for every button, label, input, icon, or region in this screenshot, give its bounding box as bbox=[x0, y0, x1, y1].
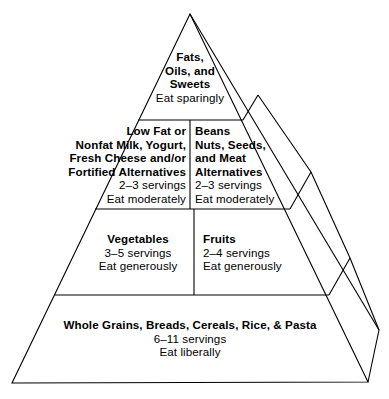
tier-4-servings: 6–11 servings bbox=[25, 332, 355, 346]
side-edge-tier2 bbox=[311, 172, 350, 258]
pyramid-side-face-bottom bbox=[368, 330, 379, 382]
tier-1-advice: Eat sparingly bbox=[128, 91, 252, 105]
tier-3-right-advice: Eat generously bbox=[203, 259, 313, 273]
tier-2-right-label: Beans Nuts, Seeds, and Meat Alternatives bbox=[195, 124, 315, 178]
tier-1-cell-fats-oils-sweets: Fats, Oils, and Sweets Eat sparingly bbox=[128, 50, 252, 104]
tier-2-cell-milk-group: Low Fat or Nonfat Milk, Yogurt, Fresh Ch… bbox=[40, 124, 186, 205]
tier-2-right-servings: 2–3 servings bbox=[195, 178, 315, 192]
tier-4-cell-grains-group: Whole Grains, Breads, Cereals, Rice, & P… bbox=[25, 318, 355, 359]
tier-3-left-advice: Eat generously bbox=[88, 259, 188, 273]
tier-2-left-servings: 2–3 servings bbox=[40, 178, 186, 192]
tier-2-left-advice: Eat moderately bbox=[40, 192, 186, 206]
tier-3-right-servings: 2–4 servings bbox=[203, 246, 313, 260]
tier-2-left-label: Low Fat or Nonfat Milk, Yogurt, Fresh Ch… bbox=[40, 124, 186, 178]
tier-2-right-advice: Eat moderately bbox=[195, 192, 315, 206]
food-pyramid-diagram: Fats, Oils, and Sweets Eat sparingly Low… bbox=[0, 0, 389, 399]
tier-4-advice: Eat liberally bbox=[25, 345, 355, 359]
tier-4-label: Whole Grains, Breads, Cereals, Rice, & P… bbox=[25, 318, 355, 332]
tier-3-right-label: Fruits bbox=[203, 232, 313, 246]
tier-3-cell-vegetables-group: Vegetables 3–5 servings Eat generously bbox=[88, 232, 188, 273]
tier-3-left-label: Vegetables bbox=[88, 232, 188, 246]
tier-1-label: Fats, Oils, and Sweets bbox=[128, 50, 252, 91]
tier-2-cell-beans-nuts-meat-group: Beans Nuts, Seeds, and Meat Alternatives… bbox=[195, 124, 315, 205]
tier-3-left-servings: 3–5 servings bbox=[88, 246, 188, 260]
tier-3-cell-fruits-group: Fruits 2–4 servings Eat generously bbox=[203, 232, 313, 273]
